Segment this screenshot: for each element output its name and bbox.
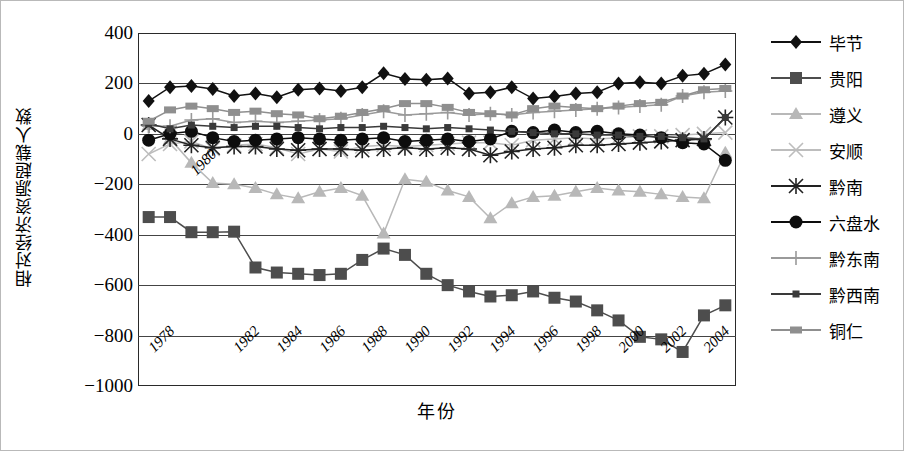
data-point-plus — [398, 108, 412, 122]
data-point-circle — [142, 134, 155, 147]
gridline — [138, 285, 736, 286]
data-point-square — [527, 285, 539, 297]
legend-label: 黔西南 — [829, 282, 880, 307]
data-point-asterisk — [589, 137, 605, 153]
y-axis-tick-labels: 4002000−200−400−600−800−1000 — [37, 33, 133, 386]
data-point-small-square — [359, 124, 366, 131]
data-point-circle — [228, 135, 241, 148]
legend-label: 六盘水 — [829, 210, 880, 235]
legend-item-六盘水[interactable]: 六盘水 — [769, 207, 880, 237]
data-point-square — [292, 268, 304, 280]
data-point-small-square — [167, 125, 174, 132]
data-point-small-square — [316, 125, 323, 132]
data-point-small-square — [444, 124, 451, 131]
data-point-square — [591, 304, 603, 316]
data-point-square — [463, 285, 475, 297]
data-point-small-square — [273, 123, 280, 130]
data-point-diamond — [420, 73, 432, 87]
y-axis-tick-label: −1000 — [41, 375, 133, 397]
data-point-small-square — [615, 132, 622, 139]
data-point-diamond — [164, 80, 176, 94]
data-point-circle — [356, 132, 369, 145]
legend-label: 遵义 — [829, 102, 863, 127]
data-point-wide-square — [484, 110, 496, 117]
data-point-square — [143, 211, 155, 223]
y-axis-tick-label: 0 — [41, 123, 133, 145]
legend-marker-small-square-icon — [769, 283, 823, 305]
data-point-small-square — [508, 128, 515, 135]
legend-item-黔南[interactable]: 黔南 — [769, 171, 863, 201]
legend-marker-diamond-icon — [769, 31, 823, 53]
data-point-circle — [270, 132, 283, 145]
data-point-diamond — [399, 72, 411, 86]
series-layer — [138, 33, 438, 183]
data-point-square — [314, 269, 326, 281]
data-point-square — [570, 296, 582, 308]
data-point-triangle — [789, 107, 803, 119]
legend-item-遵义[interactable]: 遵义 — [769, 99, 863, 129]
legend-item-贵阳[interactable]: 贵阳 — [769, 63, 863, 93]
data-point-wide-square — [314, 115, 326, 122]
y-axis-tick-label: −600 — [41, 274, 133, 296]
plot-area: 1978198019821984198619881990199219941996… — [138, 33, 736, 386]
legend-item-铜仁[interactable]: 铜仁 — [769, 315, 863, 345]
data-point-wide-square — [613, 103, 625, 110]
data-point-diamond — [207, 82, 219, 96]
data-point-small-square — [658, 133, 665, 140]
legend-marker-wide-square-icon — [769, 319, 823, 341]
data-point-square — [677, 346, 689, 358]
data-point-square — [719, 299, 731, 311]
chart-legend: 毕节贵阳遵义安顺黔南六盘水黔东南黔西南铜仁 — [769, 27, 901, 357]
legend-item-黔东南[interactable]: 黔东南 — [769, 243, 880, 273]
data-point-square — [164, 211, 176, 223]
data-point-small-square — [423, 125, 430, 132]
y-axis-tick-label: 200 — [41, 72, 133, 94]
data-point-diamond — [185, 79, 197, 93]
data-point-square — [378, 243, 390, 255]
data-point-wide-square — [719, 85, 731, 92]
chart-figure: 相对经济资源超载人数 4002000−200−400−600−800−1000 … — [0, 0, 904, 451]
legend-item-安顺[interactable]: 安顺 — [769, 135, 863, 165]
data-point-circle — [719, 154, 732, 167]
data-point-small-square — [722, 114, 729, 121]
data-point-diamond — [143, 94, 155, 108]
gridline — [138, 235, 736, 236]
data-point-wide-square — [634, 100, 646, 107]
data-point-square — [484, 290, 496, 302]
data-point-small-square — [337, 124, 344, 131]
data-point-small-square — [380, 123, 387, 130]
data-point-diamond — [271, 90, 283, 104]
y-axis-tick-label: −800 — [41, 325, 133, 347]
data-point-small-square — [594, 132, 601, 139]
data-point-plus — [789, 251, 803, 265]
legend-label: 黔东南 — [829, 246, 880, 271]
data-point-circle — [292, 131, 305, 144]
x-axis-title: 年份 — [138, 397, 736, 423]
y-axis-title-text: 相对经济资源超载人数 — [12, 107, 37, 287]
data-point-asterisk — [183, 137, 199, 153]
data-point-small-square — [231, 124, 238, 131]
legend-marker-circle-icon — [769, 211, 823, 233]
data-point-small-square — [466, 125, 473, 132]
data-point-wide-square — [378, 105, 390, 112]
data-point-small-square — [487, 127, 494, 134]
data-point-wide-square — [698, 86, 710, 93]
legend-item-黔西南[interactable]: 黔西南 — [769, 279, 880, 309]
data-point-wide-square — [548, 103, 560, 110]
data-point-asterisk — [290, 142, 306, 158]
data-point-square — [420, 268, 432, 280]
data-point-wide-square — [185, 103, 197, 110]
legend-label: 安顺 — [829, 138, 863, 163]
data-point-diamond — [356, 80, 368, 94]
legend-marker-plus-icon — [769, 247, 823, 269]
data-point-circle — [463, 135, 476, 148]
legend-item-毕节[interactable]: 毕节 — [769, 27, 863, 57]
data-point-diamond — [335, 84, 347, 98]
data-point-wide-square — [249, 108, 261, 115]
data-point-square — [249, 261, 261, 273]
data-point-asterisk — [525, 141, 541, 157]
data-point-diamond — [314, 81, 326, 95]
data-point-small-square — [252, 123, 259, 130]
data-point-square — [271, 267, 283, 279]
data-point-small-square — [188, 122, 195, 129]
